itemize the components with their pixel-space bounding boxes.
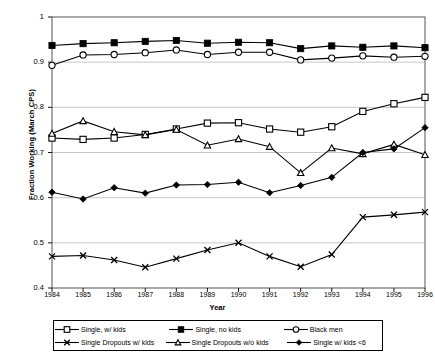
legend-item-cross-x[interactable]: Single Dropouts w/ kids <box>54 337 165 348</box>
data-point <box>80 41 86 47</box>
open-square-icon <box>54 324 80 335</box>
legend-row: Single, w/ kidsSingle, no kidsBlack men <box>54 323 382 336</box>
data-point <box>267 253 273 259</box>
x-axis-title: Year <box>0 303 435 312</box>
data-point <box>235 179 241 185</box>
legend-marker <box>165 337 191 348</box>
data-point <box>329 55 335 61</box>
data-point <box>204 181 210 187</box>
open-circle-icon <box>283 324 309 335</box>
data-point <box>298 129 304 135</box>
data-point <box>298 264 304 270</box>
data-point <box>49 130 55 136</box>
data-point <box>173 47 179 53</box>
data-point <box>204 51 210 57</box>
series-4 <box>49 118 428 176</box>
legend-marker <box>286 337 312 348</box>
data-point <box>298 57 304 63</box>
data-point <box>111 40 117 46</box>
data-point <box>266 126 272 132</box>
data-point <box>360 44 366 50</box>
data-point <box>391 43 397 49</box>
legend-marker <box>54 337 80 348</box>
data-point <box>266 40 272 46</box>
data-point <box>173 182 179 188</box>
data-point <box>360 108 366 114</box>
data-point <box>142 50 148 56</box>
legend-label: Single Dropouts w/o kids <box>191 339 269 346</box>
data-point <box>111 185 117 191</box>
series-line <box>52 212 425 267</box>
legend-marker <box>283 324 309 335</box>
data-point <box>422 94 428 100</box>
data-point <box>329 124 335 130</box>
legend-label: Single w/ kids <6 <box>312 339 366 346</box>
data-point <box>49 42 55 48</box>
data-point <box>80 136 86 142</box>
data-point <box>49 62 55 68</box>
legend-marker <box>168 324 194 335</box>
data-point <box>329 43 335 49</box>
open-triangle-icon <box>165 337 191 348</box>
data-point <box>111 51 117 57</box>
chart-legend: Single, w/ kidsSingle, no kidsBlack men … <box>53 320 383 351</box>
data-point <box>80 118 86 124</box>
series-2 <box>49 47 428 69</box>
data-point <box>235 136 241 142</box>
legend-label: Black men <box>309 326 343 333</box>
data-point <box>422 45 428 51</box>
data-point <box>142 190 148 196</box>
series-3 <box>49 209 428 270</box>
data-point <box>49 189 55 195</box>
data-point <box>142 38 148 44</box>
legend-marker <box>54 324 80 335</box>
data-point <box>329 252 335 258</box>
data-point <box>422 53 428 59</box>
data-point <box>422 124 428 130</box>
open-circle-icon <box>293 326 299 332</box>
data-point <box>266 189 272 195</box>
chart-container: Fraction Working (March CPS) 10.90.80.70… <box>0 0 435 357</box>
data-point <box>80 52 86 58</box>
data-point <box>329 145 335 151</box>
legend-item-open-square[interactable]: Single, w/ kids <box>54 324 168 335</box>
data-point <box>235 49 241 55</box>
cross-x-icon <box>54 337 80 348</box>
legend-item-open-circle[interactable]: Black men <box>283 324 382 335</box>
data-point <box>266 49 272 55</box>
data-point <box>204 40 210 46</box>
legend-label: Single, w/ kids <box>80 326 126 333</box>
data-point <box>111 135 117 141</box>
legend-label: Single, no kids <box>194 326 241 333</box>
data-point <box>173 256 179 262</box>
legend-item-filled-square[interactable]: Single, no kids <box>168 324 282 335</box>
data-point <box>235 120 241 126</box>
open-square-icon <box>64 326 70 332</box>
legend-item-filled-diamond[interactable]: Single w/ kids <6 <box>286 337 382 348</box>
data-point <box>173 37 179 43</box>
filled-square-icon <box>179 326 185 332</box>
filled-diamond-icon <box>286 337 312 348</box>
legend-item-open-triangle[interactable]: Single Dropouts w/o kids <box>165 337 287 348</box>
data-point <box>360 53 366 59</box>
filled-square-icon <box>168 324 194 335</box>
legend-label: Single Dropouts w/ kids <box>80 339 154 346</box>
data-point <box>391 101 397 107</box>
filled-diamond-icon <box>296 339 302 345</box>
data-point <box>391 54 397 60</box>
data-point <box>298 46 304 52</box>
data-point <box>80 196 86 202</box>
data-point <box>204 120 210 126</box>
series-line <box>52 121 425 173</box>
series-line <box>52 97 425 139</box>
legend-row: Single Dropouts w/ kidsSingle Dropouts w… <box>54 336 382 349</box>
open-triangle-icon <box>175 339 181 344</box>
data-point <box>235 39 241 45</box>
data-point <box>297 182 303 188</box>
